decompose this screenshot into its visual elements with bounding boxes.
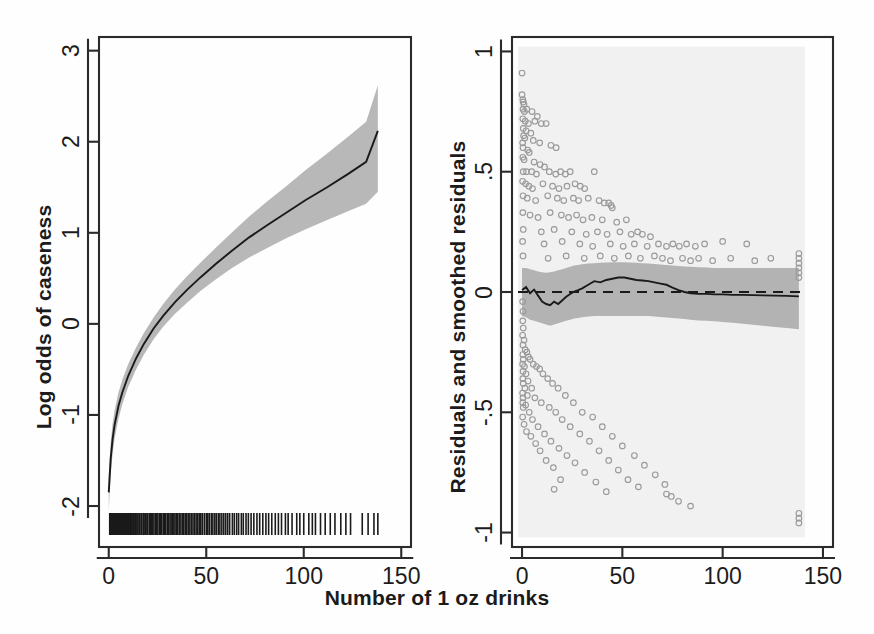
right-y-tick-label: .5 (471, 162, 498, 181)
left-y-tick-label: 3 (57, 44, 84, 57)
left-x-tick-label: 50 (193, 563, 219, 590)
left-y-tick-label: 1 (57, 226, 84, 239)
figure-canvas: Log odds of caseness Residuals and smoot… (0, 0, 874, 634)
right-y-tick-label: 1 (470, 45, 497, 58)
left-y-tick-label: -1 (58, 405, 85, 425)
left-x-tick-label: 150 (382, 563, 420, 590)
right-x-tick-label: 100 (703, 563, 741, 590)
shared-x-axis-title: Number of 1 oz drinks (0, 586, 874, 610)
right-y-tick-label: -.5 (470, 399, 497, 426)
left-y-tick-label: 0 (57, 317, 84, 330)
left-x-tick-label: 100 (285, 563, 323, 590)
left-y-tick-label: -2 (58, 496, 85, 516)
left-x-tick-label: 0 (102, 563, 115, 590)
left-y-tick-label: 2 (57, 135, 84, 148)
right-y-tick-label: -1 (471, 522, 498, 542)
right-y-tick-label: 0 (470, 286, 497, 299)
right-x-tick-label: 0 (516, 563, 529, 590)
right-x-tick-label: 50 (610, 563, 636, 590)
right-x-tick-label: 150 (804, 563, 842, 590)
